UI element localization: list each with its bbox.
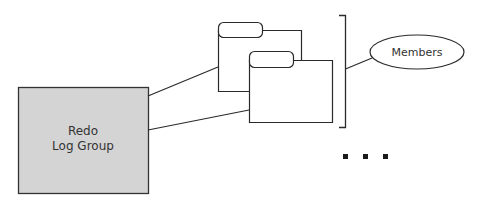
- member-file-2-icon: [250, 52, 333, 123]
- member-file-1-tab: [219, 23, 263, 38]
- members-callout-line: [346, 58, 373, 69]
- members-callout: Members: [370, 35, 464, 69]
- connector-line-member-1: [148, 67, 218, 96]
- member-file-2-tab: [250, 52, 294, 68]
- ellipsis-dot-1: [343, 154, 348, 159]
- members-label: Members: [392, 46, 443, 59]
- ellipsis-dot-2: [363, 154, 368, 159]
- redo-log-group-label-line1: Redo: [68, 124, 98, 138]
- connector-line-member-2: [148, 110, 249, 130]
- redo-log-diagram: Redo Log Group Members: [0, 0, 480, 202]
- ellipsis-dot-3: [383, 154, 388, 159]
- members-bracket: [339, 16, 346, 128]
- redo-log-group-label-line2: Log Group: [52, 139, 114, 153]
- redo-log-group: Redo Log Group: [19, 88, 149, 194]
- ellipsis-dots-icon: [343, 154, 388, 159]
